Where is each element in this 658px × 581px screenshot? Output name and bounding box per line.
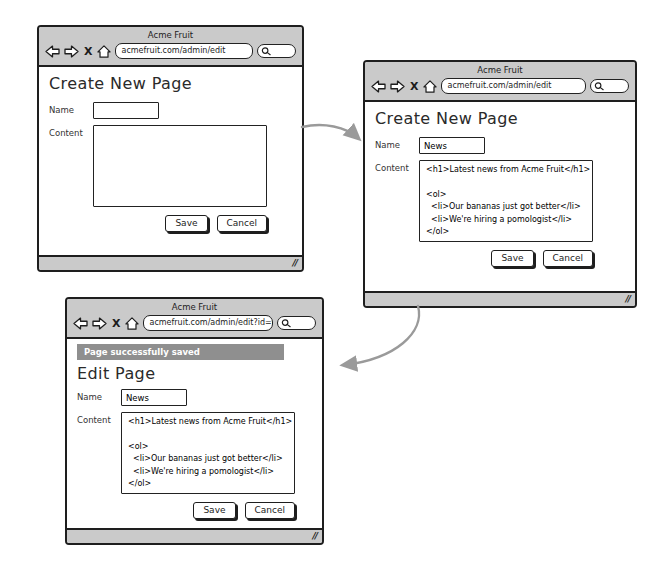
browser-toolbar: X acmefruit.com/admin/edit [45,43,296,59]
save-button[interactable]: Save [491,250,533,267]
cancel-button[interactable]: Cancel [245,502,296,519]
cancel-button[interactable]: Cancel [543,250,594,267]
browser-window-create-filled: Acme Fruit X acmefruit.com/admin/edit Cr… [363,60,637,308]
url-field[interactable]: acmefruit.com/admin/edit [115,43,253,59]
search-box[interactable] [590,79,629,93]
name-input[interactable] [121,389,187,406]
search-box[interactable] [277,316,316,330]
home-icon[interactable] [125,317,139,330]
forward-icon[interactable] [64,45,79,58]
back-icon[interactable] [73,317,88,330]
page-content: Create New Page Name Content <h1>Latest … [365,102,635,291]
notification-banner: Page successfully saved [77,344,284,360]
home-icon[interactable] [423,80,437,93]
page-heading: Create New Page [49,74,292,93]
flow-arrow-filled-to-edit [328,302,432,376]
content-label: Content [49,125,93,207]
browser-window-edit-saved: Acme Fruit X acmefruit.com/admin/edit?id… [65,297,324,545]
page-heading: Create New Page [375,109,625,128]
home-icon[interactable] [97,45,111,58]
search-box[interactable] [257,44,296,58]
content-textarea[interactable]: <h1>Latest news from Acme Fruit</h1> <ol… [419,160,593,242]
name-label: Name [49,102,93,119]
content-label: Content [77,412,121,494]
browser-toolbar: X acmefruit.com/admin/edit [371,78,629,94]
save-button[interactable]: Save [193,502,235,519]
forward-icon[interactable] [92,317,107,330]
status-bar: // [67,528,322,543]
content-textarea[interactable] [93,125,267,207]
name-input[interactable] [419,137,485,154]
page-heading: Edit Page [77,364,312,383]
url-field[interactable]: acmefruit.com/admin/edit?id=6 [143,315,273,331]
window-title: Acme Fruit [45,29,296,43]
resize-handle-icon[interactable]: // [625,295,630,304]
browser-toolbar: X acmefruit.com/admin/edit?id=6 [73,315,316,331]
page-content: Page successfully saved Edit Page Name C… [67,339,322,528]
resize-handle-icon[interactable]: // [292,259,297,268]
back-icon[interactable] [371,80,386,93]
window-title: Acme Fruit [73,301,316,315]
window-title: Acme Fruit [371,64,629,78]
status-bar: // [39,255,302,270]
stop-icon[interactable]: X [409,81,419,92]
browser-chrome: Acme Fruit X acmefruit.com/admin/edit [365,62,635,102]
name-input[interactable] [93,102,159,119]
search-icon [261,46,272,57]
browser-window-create-blank: Acme Fruit X acmefruit.com/admin/edit Cr… [37,25,304,272]
stop-icon[interactable]: X [83,46,93,57]
content-textarea[interactable]: <h1>Latest news from Acme Fruit</h1> <ol… [121,412,295,494]
browser-chrome: Acme Fruit X acmefruit.com/admin/edit [39,27,302,67]
search-icon [594,81,605,92]
content-label: Content [375,160,419,242]
resize-handle-icon[interactable]: // [312,532,317,541]
url-field[interactable]: acmefruit.com/admin/edit [441,78,586,94]
stop-icon[interactable]: X [111,318,121,329]
flow-arrow-create-to-filled [298,114,368,150]
back-icon[interactable] [45,45,60,58]
search-icon [281,318,292,329]
status-bar: // [365,291,635,306]
cancel-button[interactable]: Cancel [217,215,268,232]
name-label: Name [375,137,419,154]
forward-icon[interactable] [390,80,405,93]
page-content: Create New Page Name Content Save Cancel [39,67,302,255]
name-label: Name [77,389,121,406]
save-button[interactable]: Save [165,215,207,232]
browser-chrome: Acme Fruit X acmefruit.com/admin/edit?id… [67,299,322,339]
